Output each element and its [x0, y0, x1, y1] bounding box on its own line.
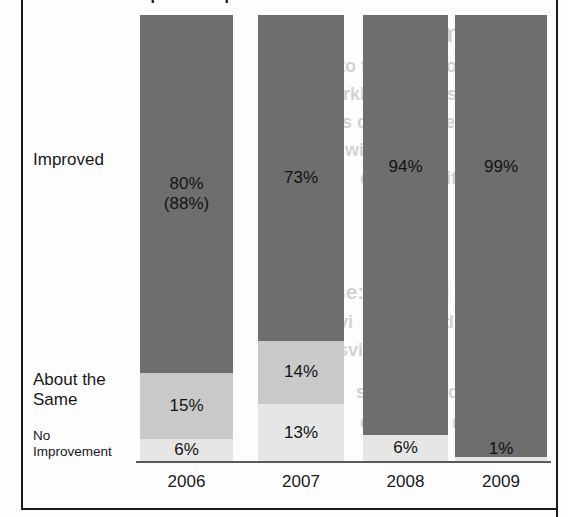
figure-border-bottom: [21, 508, 558, 510]
chart-figure: Your ssignm nt You d ide to to rea con a…: [0, 0, 568, 517]
bar-label-improved-2008: 94%: [363, 157, 448, 177]
bar-label-noimprovement-2006: 6%: [174, 440, 199, 460]
bar-segment-improved-2006[interactable]: 80% (88%): [140, 15, 233, 373]
category-label-about-the-same-line2: Same: [33, 390, 77, 409]
bar-label-improved-2006-value: 80%: [169, 174, 203, 193]
bar-label-noimprovement-2007: 13%: [284, 423, 318, 443]
bar-segment-improved-2008[interactable]: 94%: [363, 15, 448, 435]
bar-2006[interactable]: 80% (88%) 15% 6%: [140, 15, 233, 462]
x-tick-2008: 2008: [363, 472, 448, 492]
bar-2009[interactable]: 99% 1%: [455, 15, 547, 462]
bar-label-noimprovement-2008: 6%: [393, 438, 418, 458]
category-label-no-improvement: No Improvement: [33, 428, 112, 459]
bar-label-improved-2009: 99%: [455, 157, 547, 177]
x-tick-2007: 2007: [258, 472, 344, 492]
x-tick-2009: 2009: [455, 472, 547, 492]
category-label-about-the-same-line1: About the: [33, 370, 106, 389]
bar-2008[interactable]: 94% 6%: [363, 15, 448, 462]
bar-label-same-2007: 14%: [284, 362, 318, 382]
x-tick-2006: 2006: [140, 472, 233, 492]
bar-segment-noimprovement-2007[interactable]: 13%: [258, 404, 344, 462]
category-label-improved: Improved: [33, 150, 104, 170]
figure-border-left: [21, 0, 23, 510]
bar-segment-improved-2007[interactable]: 73%: [258, 15, 344, 341]
bar-label-noimprovement-2009: 1%: [455, 439, 547, 459]
bar-label-improved-2006-paren: (88%): [164, 194, 209, 214]
bar-segment-same-2007[interactable]: 14%: [258, 341, 344, 404]
x-axis-line: [136, 461, 551, 463]
figure-border-right: [556, 0, 558, 517]
bar-label-improved-2007: 73%: [284, 168, 318, 188]
bar-2007[interactable]: 73% 14% 13%: [258, 15, 344, 462]
bar-segment-same-2006[interactable]: 15%: [140, 373, 233, 439]
bar-label-improved-2006: 80% (88%): [164, 174, 209, 214]
category-label-about-the-same: About the Same: [33, 370, 106, 411]
category-label-no-improvement-line1: No: [33, 428, 50, 443]
category-label-no-improvement-line2: Improvement: [33, 444, 112, 459]
bar-segment-improved-2009[interactable]: 99%: [455, 15, 547, 457]
chart-title: Student Self-Reported Improvement: Fall …: [30, 0, 427, 4]
plot-area: 80% (88%) 15% 6% 73% 14% 13%: [0, 0, 568, 517]
bar-label-same-2006: 15%: [169, 396, 203, 416]
bar-segment-noimprovement-2008[interactable]: 6%: [363, 435, 448, 462]
bar-segment-noimprovement-2006[interactable]: 6%: [140, 439, 233, 462]
